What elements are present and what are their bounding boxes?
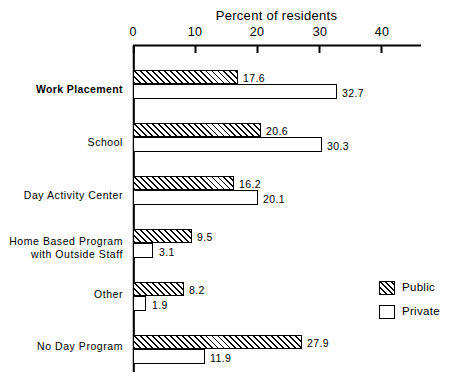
x-tick-label-0: 0 — [129, 25, 136, 39]
bar-public-other — [133, 282, 184, 296]
legend-swatch-public — [379, 281, 395, 295]
bar-value-public-home-based-program: 9.5 — [197, 231, 213, 243]
legend-label-public: Public — [402, 281, 435, 293]
bar-value-private-day-activity-center: 20.1 — [263, 193, 285, 205]
bar-value-public-no-day-program: 27.9 — [307, 337, 329, 349]
bar-value-public-day-activity-center: 16.2 — [239, 178, 261, 190]
bar-public-school — [133, 123, 261, 137]
bar-chart: Percent of residents 0 10 20 30 40 Work … — [0, 0, 455, 386]
bar-public-no-day-program — [133, 335, 302, 349]
x-tick-label-20: 20 — [250, 25, 264, 39]
bar-private-work-placement — [133, 84, 337, 99]
bar-private-school — [133, 137, 322, 152]
bar-value-public-school: 20.6 — [266, 125, 288, 137]
bar-value-private-other: 1.9 — [152, 299, 168, 311]
category-label-no-day-program: No Day Program — [37, 340, 123, 353]
category-label-work-placement: Work Placement — [36, 83, 123, 96]
category-label-school: School — [88, 136, 123, 149]
bar-public-work-placement — [133, 70, 238, 84]
legend-label-private: Private — [402, 305, 440, 317]
legend-swatch-private — [379, 305, 395, 319]
bar-value-private-work-placement: 32.7 — [342, 87, 364, 99]
bar-value-private-home-based-program: 3.1 — [159, 246, 175, 258]
bar-private-other — [133, 296, 146, 311]
bar-private-no-day-program — [133, 349, 205, 364]
bar-value-public-other: 8.2 — [189, 284, 205, 296]
category-label-home-based-program-line2: with Outside Staff — [31, 248, 123, 261]
bar-value-private-no-day-program: 11.9 — [210, 352, 231, 364]
chart-title: Percent of residents — [133, 8, 420, 23]
bar-public-day-activity-center — [133, 176, 234, 190]
x-tick-label-10: 10 — [188, 25, 202, 39]
bar-value-public-work-placement: 17.6 — [243, 72, 265, 84]
bar-value-private-school: 30.3 — [327, 140, 349, 152]
x-tick-label-40: 40 — [375, 25, 389, 39]
bar-public-home-based-program — [133, 229, 192, 243]
bar-private-day-activity-center — [133, 190, 258, 205]
category-label-other: Other — [94, 288, 123, 301]
category-label-home-based-program-line1: Home Based Program — [9, 235, 123, 248]
x-tick-label-30: 30 — [313, 25, 327, 39]
bar-private-home-based-program — [133, 243, 153, 258]
category-label-day-activity-center: Day Activity Center — [24, 189, 123, 202]
